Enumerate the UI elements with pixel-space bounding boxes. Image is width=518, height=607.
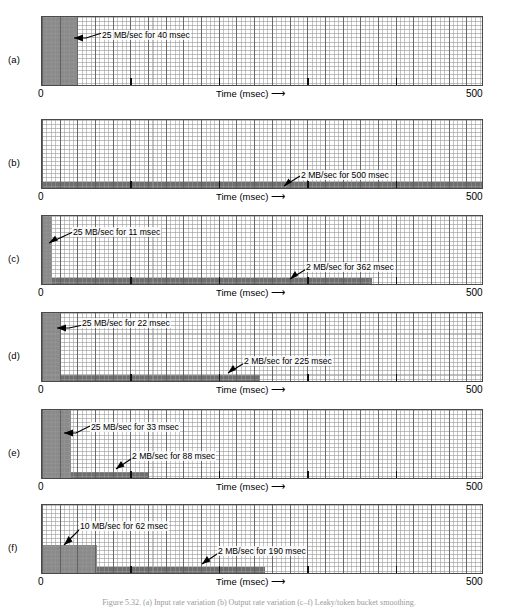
panel-f-annotation-0: 10 MB/sec for 62 msec: [79, 521, 169, 531]
panel-a-segment-0: [42, 17, 77, 85]
panel-b-segment-0: [42, 182, 483, 188]
panel-d: (d) 25 MB/sec for 22 msec 2 MB/sec for 2…: [0, 312, 518, 400]
panel-d-annotation-1: 2 MB/sec for 225 msec: [243, 356, 333, 366]
panel-a-x-min: 0: [38, 88, 44, 99]
panel-f-tick-200: [219, 566, 221, 573]
panel-b-axis-title-text: Time (msec): [216, 191, 268, 202]
panel-d-tick-100: [130, 374, 132, 381]
panel-d-segment-1: [61, 375, 260, 381]
panel-f-axis-title: Time (msec) ⟶: [216, 576, 284, 587]
panel-b-tick-200: [219, 181, 221, 188]
panel-b-grid: [42, 120, 482, 188]
panel-e-tick-400: [396, 471, 398, 478]
panel-e-segment-1: [71, 472, 149, 478]
panel-b-label: (b): [8, 157, 20, 168]
panel-e: (e) 25 MB/sec for 33 msec 2 MB/sec for 8…: [0, 409, 518, 497]
panel-e-tick-200: [219, 471, 221, 478]
panel-f-label: (f): [8, 542, 18, 553]
panel-a-tick-100: [130, 78, 132, 85]
panel-c-segment-1: [52, 278, 372, 284]
panel-a-grid: [42, 17, 482, 85]
panel-d-segment-0: [42, 313, 61, 381]
panel-a-axis-title-text: Time (msec): [216, 88, 268, 99]
panel-a-tick-200: [219, 78, 221, 85]
panel-b-plot: 2 MB/sec for 500 msec: [41, 119, 483, 189]
panel-d-tick-300: [307, 374, 309, 381]
panel-f-tick-100: [130, 566, 132, 573]
panel-d-x-min: 0: [38, 384, 44, 395]
panel-e-tick-100: [130, 471, 132, 478]
panel-c-x-min: 0: [38, 287, 44, 298]
panel-d-axis-arrow: ⟶: [271, 384, 284, 395]
panel-f-x-min: 0: [38, 576, 44, 587]
panel-c-axis-arrow: ⟶: [271, 287, 284, 298]
panel-b-annotation-0: 2 MB/sec for 500 msec: [300, 170, 390, 180]
panel-c-axis-title-text: Time (msec): [216, 287, 268, 298]
panel-a-label: (a): [8, 54, 20, 65]
panel-f-tick-400: [396, 566, 398, 573]
panel-a-tick-300: [307, 78, 309, 85]
panel-c-x-max: 500: [466, 287, 483, 298]
panel-c-tick-200: [219, 277, 221, 284]
panel-b-axis-arrow: ⟶: [271, 191, 284, 202]
panel-a-x-max: 500: [466, 88, 483, 99]
panel-c-annotation-0: 25 MB/sec for 11 msec: [72, 227, 161, 237]
panel-a-annotation-0: 25 MB/sec for 40 msec: [101, 30, 191, 40]
panel-f-annotation-1: 2 MB/sec for 190 msec: [217, 546, 307, 556]
panel-e-x-min: 0: [38, 481, 44, 492]
panel-d-axis-title: Time (msec) ⟶: [216, 384, 284, 395]
panel-c-segment-0: [42, 216, 52, 284]
panel-e-annotation-0: 25 MB/sec for 33 msec: [90, 422, 180, 432]
panel-e-axis-title: Time (msec) ⟶: [216, 481, 284, 492]
panel-e-x-max: 500: [466, 481, 483, 492]
panel-d-annotation-0: 25 MB/sec for 22 msec: [81, 318, 171, 328]
panel-b-x-max: 500: [466, 191, 483, 202]
panel-e-axis-arrow: ⟶: [271, 481, 284, 492]
panel-f-grid: [42, 505, 482, 573]
figure-container: (a) 25 MB/sec for 40 msec 0 500 Time (ms…: [0, 0, 518, 607]
panel-f-tick-300: [307, 566, 309, 573]
panel-d-tick-200: [219, 374, 221, 381]
panel-b-tick-300: [307, 181, 309, 188]
panel-e-segment-0: [42, 410, 71, 478]
panel-b-tick-100: [130, 181, 132, 188]
panel-c-tick-300: [307, 277, 309, 284]
panel-f-axis-arrow: ⟶: [271, 576, 284, 587]
panel-e-annotation-1: 2 MB/sec for 88 msec: [131, 451, 216, 461]
panel-c-axis-title: Time (msec) ⟶: [216, 287, 284, 298]
panel-c: (c) 25 MB/sec for 11 msec 2 MB/sec for 3…: [0, 215, 518, 303]
panel-a-axis-title: Time (msec) ⟶: [216, 88, 284, 99]
panel-d-plot: 25 MB/sec for 22 msec 2 MB/sec for 225 m…: [41, 312, 483, 382]
panel-e-tick-300: [307, 471, 309, 478]
panel-a: (a) 25 MB/sec for 40 msec 0 500 Time (ms…: [0, 16, 518, 104]
panel-e-plot: 25 MB/sec for 33 msec 2 MB/sec for 88 ms…: [41, 409, 483, 479]
panel-c-tick-100: [130, 277, 132, 284]
panel-c-tick-400: [396, 277, 398, 284]
panel-c-annotation-1: 2 MB/sec for 362 msec: [305, 262, 395, 272]
panel-e-label: (e): [8, 447, 20, 458]
panel-f-segment-1: [97, 567, 265, 573]
panel-b-tick-400: [396, 181, 398, 188]
panel-e-axis-title-text: Time (msec): [216, 481, 268, 492]
panel-e-grid: [42, 410, 482, 478]
panel-b-x-min: 0: [38, 191, 44, 202]
panel-d-tick-400: [396, 374, 398, 381]
panel-b: (b) 2 MB/sec for 500 msec 0 500 Time (ms…: [0, 119, 518, 207]
panel-b-axis-title: Time (msec) ⟶: [216, 191, 284, 202]
panel-d-x-max: 500: [466, 384, 483, 395]
figure-caption: Figure 5.32. (a) Input rate variation (b…: [0, 598, 518, 607]
panel-f-axis-title-text: Time (msec): [216, 576, 268, 587]
panel-a-plot: 25 MB/sec for 40 msec: [41, 16, 483, 86]
panel-f-x-max: 500: [466, 576, 483, 587]
panel-a-axis-arrow: ⟶: [271, 88, 284, 99]
panel-d-axis-title-text: Time (msec): [216, 384, 268, 395]
panel-f-segment-0: [42, 545, 97, 573]
panel-a-tick-400: [396, 78, 398, 85]
panel-c-label: (c): [8, 253, 20, 264]
panel-c-plot: 25 MB/sec for 11 msec 2 MB/sec for 362 m…: [41, 215, 483, 285]
panel-d-label: (d): [8, 350, 20, 361]
panel-f-plot: 10 MB/sec for 62 msec 2 MB/sec for 190 m…: [41, 504, 483, 574]
panel-f: (f) 10 MB/sec for 62 msec 2 MB/sec for 1…: [0, 504, 518, 592]
